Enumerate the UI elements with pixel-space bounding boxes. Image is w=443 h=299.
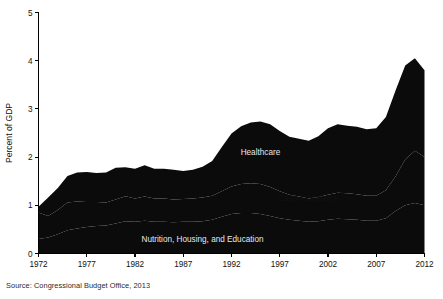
chart-figure: 0123451972197719821987199219972002200720… — [0, 0, 443, 299]
x-tick-label-1987: 1987 — [174, 260, 193, 269]
series-annotation-0: Healthcare — [241, 148, 281, 157]
y-tick-label-5: 5 — [28, 9, 33, 18]
x-tick-label-2002: 2002 — [319, 260, 338, 269]
x-tick-label-1982: 1982 — [126, 260, 145, 269]
x-tick-label-2007: 2007 — [367, 260, 386, 269]
y-tick-label-2: 2 — [28, 153, 33, 162]
x-tick-label-1997: 1997 — [271, 260, 290, 269]
y-tick-label-1: 1 — [28, 201, 33, 210]
y-axis-title: Percent of GDP — [4, 103, 14, 163]
y-tick-label-4: 4 — [28, 57, 33, 66]
y-tick-label-0: 0 — [28, 250, 33, 259]
area-chart-plot: 0123451972197719821987199219972002200720… — [0, 0, 443, 299]
series-annotation-1: Cash Assistance — [278, 194, 339, 203]
x-tick-label-1972: 1972 — [29, 260, 48, 269]
source-note: Source: Congressional Budget Office, 201… — [6, 281, 150, 290]
x-tick-label-1977: 1977 — [78, 260, 97, 269]
x-tick-label-2012: 2012 — [415, 260, 434, 269]
series-annotation-2: Nutrition, Housing, and Education — [142, 235, 264, 244]
x-tick-label-1992: 1992 — [222, 260, 241, 269]
y-tick-label-3: 3 — [28, 105, 33, 114]
